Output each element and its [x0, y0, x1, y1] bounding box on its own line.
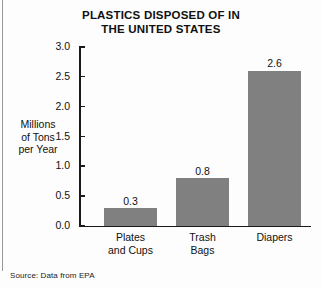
- bar-diapers: [248, 71, 301, 226]
- bar-trash-bags: [176, 178, 229, 226]
- y-axis-title-line-3: per Year: [2, 143, 74, 156]
- chart-title-line-2: THE UNITED STATES: [0, 22, 322, 36]
- y-tick-label-6: 3.0: [24, 41, 70, 51]
- source-note: Source: Data from EPA: [10, 271, 95, 280]
- chart-title: PLASTICS DISPOSED OF IN THE UNITED STATE…: [0, 8, 322, 36]
- chart-figure: PLASTICS DISPOSED OF IN THE UNITED STATE…: [0, 0, 322, 287]
- bar-plates-and-cups: [104, 208, 157, 226]
- y-tick-label-5: 2.5: [24, 71, 70, 81]
- y-tick-0: [80, 225, 85, 227]
- category-label-plates-and-cups-line-1: Plates: [90, 231, 171, 244]
- y-tick-4: [80, 106, 85, 108]
- y-tick-2: [80, 165, 85, 167]
- category-label-diapers: Diapers: [238, 231, 311, 244]
- y-tick-6: [80, 46, 85, 48]
- y-tick-5: [80, 76, 85, 78]
- bar-value-trash-bags: 0.8: [176, 166, 229, 177]
- y-axis-title-line-2: of Tons: [2, 131, 74, 144]
- y-tick-label-2: 1.0: [24, 160, 70, 170]
- category-label-plates-and-cups: Plates and Cups: [90, 231, 171, 256]
- y-tick-label-4: 2.0: [24, 101, 70, 111]
- y-tick-label-0: 0.0: [24, 220, 70, 230]
- y-tick-1: [80, 195, 85, 197]
- y-axis-title-line-1: Millions: [2, 118, 74, 131]
- y-tick-label-1: 0.5: [24, 190, 70, 200]
- bar-value-diapers: 2.6: [248, 58, 301, 69]
- category-label-plates-and-cups-line-2: and Cups: [90, 244, 171, 257]
- chart-title-line-1: PLASTICS DISPOSED OF IN: [0, 8, 322, 22]
- category-label-trash-bags-line-2: Bags: [166, 244, 239, 257]
- bar-value-plates-and-cups: 0.3: [104, 196, 157, 207]
- y-axis-title: Millions of Tons per Year: [2, 118, 74, 156]
- category-label-diapers-line-1: Diapers: [238, 231, 311, 244]
- category-label-trash-bags: Trash Bags: [166, 231, 239, 256]
- y-tick-3: [80, 136, 85, 138]
- category-label-trash-bags-line-1: Trash: [166, 231, 239, 244]
